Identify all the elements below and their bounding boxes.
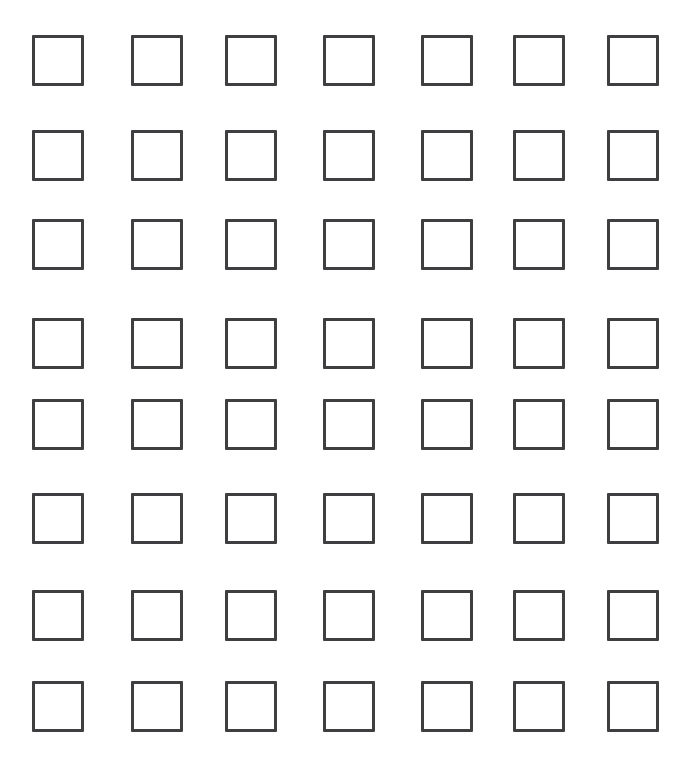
checkbox-r4c5[interactable] — [421, 318, 473, 369]
checkbox-r8c6[interactable] — [513, 681, 565, 732]
checkbox-r1c2[interactable] — [131, 35, 183, 86]
checkbox-r4c4[interactable] — [323, 318, 375, 369]
checkbox-r8c2[interactable] — [131, 681, 183, 732]
checkbox-r2c1[interactable] — [32, 130, 84, 181]
checkbox-r3c3[interactable] — [225, 219, 277, 270]
checkbox-r1c1[interactable] — [32, 35, 84, 86]
checkbox-row-5 — [0, 399, 691, 451]
checkbox-r2c7[interactable] — [607, 130, 659, 181]
checkbox-r2c4[interactable] — [323, 130, 375, 181]
checkbox-r1c3[interactable] — [225, 35, 277, 86]
checkbox-r6c3[interactable] — [225, 493, 277, 544]
checkbox-row-7 — [0, 590, 691, 642]
checkbox-r8c5[interactable] — [421, 681, 473, 732]
checkbox-row-6 — [0, 493, 691, 545]
checkbox-r1c6[interactable] — [513, 35, 565, 86]
checkbox-r7c7[interactable] — [607, 590, 659, 641]
checkbox-r4c6[interactable] — [513, 318, 565, 369]
checkbox-r2c2[interactable] — [131, 130, 183, 181]
checkbox-row-4 — [0, 318, 691, 370]
checkbox-r6c7[interactable] — [607, 493, 659, 544]
checkbox-r7c6[interactable] — [513, 590, 565, 641]
checkbox-row-8 — [0, 681, 691, 733]
checkbox-r3c7[interactable] — [607, 219, 659, 270]
checkbox-r1c5[interactable] — [421, 35, 473, 86]
checkbox-r7c2[interactable] — [131, 590, 183, 641]
checkbox-r3c4[interactable] — [323, 219, 375, 270]
checkbox-r8c4[interactable] — [323, 681, 375, 732]
checkbox-r4c2[interactable] — [131, 318, 183, 369]
checkbox-r7c3[interactable] — [225, 590, 277, 641]
checkbox-r4c3[interactable] — [225, 318, 277, 369]
footer-faint-marks — [255, 742, 455, 756]
checkbox-r3c2[interactable] — [131, 219, 183, 270]
checkbox-r2c3[interactable] — [225, 130, 277, 181]
checkbox-grid-page — [0, 0, 691, 759]
checkbox-r1c7[interactable] — [607, 35, 659, 86]
checkbox-r8c7[interactable] — [607, 681, 659, 732]
checkbox-r4c1[interactable] — [32, 318, 84, 369]
checkbox-r8c3[interactable] — [225, 681, 277, 732]
checkbox-r5c3[interactable] — [225, 399, 277, 450]
checkbox-r7c5[interactable] — [421, 590, 473, 641]
checkbox-r2c6[interactable] — [513, 130, 565, 181]
checkbox-r8c1[interactable] — [32, 681, 84, 732]
checkbox-r5c2[interactable] — [131, 399, 183, 450]
checkbox-r5c5[interactable] — [421, 399, 473, 450]
checkbox-row-3 — [0, 219, 691, 271]
checkbox-r4c7[interactable] — [607, 318, 659, 369]
checkbox-r5c4[interactable] — [323, 399, 375, 450]
checkbox-r6c5[interactable] — [421, 493, 473, 544]
checkbox-grid — [0, 0, 691, 759]
checkbox-r3c6[interactable] — [513, 219, 565, 270]
checkbox-r3c5[interactable] — [421, 219, 473, 270]
checkbox-row-2 — [0, 130, 691, 182]
checkbox-r1c4[interactable] — [323, 35, 375, 86]
checkbox-row-1 — [0, 35, 691, 87]
checkbox-r5c1[interactable] — [32, 399, 84, 450]
checkbox-r5c6[interactable] — [513, 399, 565, 450]
checkbox-r5c7[interactable] — [607, 399, 659, 450]
checkbox-r3c1[interactable] — [32, 219, 84, 270]
checkbox-r6c6[interactable] — [513, 493, 565, 544]
checkbox-r7c4[interactable] — [323, 590, 375, 641]
checkbox-r6c2[interactable] — [131, 493, 183, 544]
checkbox-r2c5[interactable] — [421, 130, 473, 181]
checkbox-r6c4[interactable] — [323, 493, 375, 544]
checkbox-r6c1[interactable] — [32, 493, 84, 544]
checkbox-r7c1[interactable] — [32, 590, 84, 641]
